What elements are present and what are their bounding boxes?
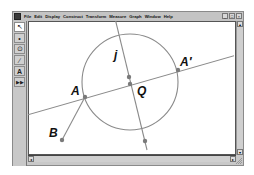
label-a-prime: A′ [179, 55, 193, 69]
label-b: B [49, 126, 58, 140]
label-j: j [112, 48, 118, 62]
point-q[interactable] [128, 82, 132, 86]
label-a: A [70, 84, 80, 98]
label-q: Q [137, 84, 147, 98]
geometry-sketch: j A′ A Q B [0, 0, 254, 175]
point-b[interactable] [60, 138, 64, 142]
point-a[interactable] [83, 95, 87, 99]
point-on-j[interactable] [127, 75, 131, 79]
line-a-a-prime[interactable] [27, 54, 240, 115]
point-on-j-lower[interactable] [143, 139, 147, 143]
